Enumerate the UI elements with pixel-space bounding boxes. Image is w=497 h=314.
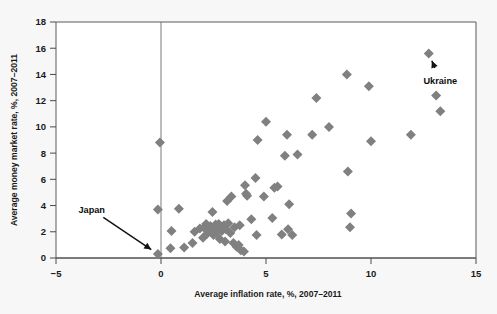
- x-axis-title: Average inflation rate, %, 2007–2011: [194, 289, 342, 299]
- y-tick-label: 4: [41, 200, 47, 211]
- x-tick-label: 0: [158, 268, 163, 279]
- scatter-chart-figure: −5051015 024681012141618 JapanUkraine Av…: [0, 0, 497, 314]
- x-tick-label: 5: [263, 268, 269, 279]
- y-tick-label: 0: [41, 252, 46, 263]
- annotation-label-ukraine: Ukraine: [423, 76, 457, 86]
- x-tick-label: 15: [471, 268, 482, 279]
- chart-svg: −5051015 024681012141618 JapanUkraine Av…: [0, 0, 497, 314]
- y-tick-label: 2: [41, 226, 46, 237]
- y-tick-label: 8: [41, 148, 46, 159]
- x-tick-label: 10: [366, 268, 377, 279]
- y-tick-label: 16: [35, 43, 46, 54]
- y-tick-label: 18: [35, 16, 46, 27]
- y-axis-title: Average money market rate, %, 2007–2011: [9, 54, 19, 226]
- y-tick-label: 10: [35, 121, 46, 132]
- y-tick-label: 6: [41, 174, 46, 185]
- x-tick-label: −5: [51, 268, 63, 279]
- annotation-label-japan: Japan: [78, 205, 105, 215]
- y-tick-label: 14: [35, 69, 46, 80]
- plot-area-background-left: [56, 22, 160, 258]
- y-tick-label: 12: [35, 95, 46, 106]
